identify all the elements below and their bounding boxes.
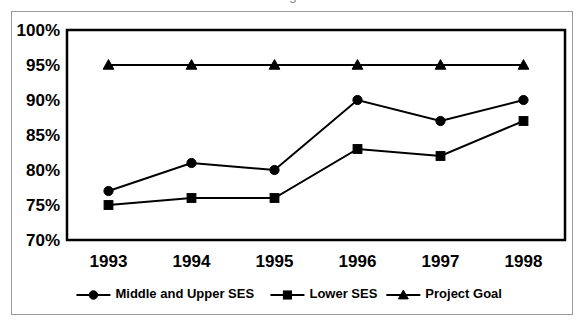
circle-marker-icon (353, 95, 362, 104)
square-marker-icon (270, 194, 279, 203)
series-line (109, 100, 524, 191)
square-marker-icon (104, 201, 113, 210)
legend-item-2[interactable]: Project Goal (386, 286, 502, 301)
x-axis-tick-labels: 199319941995199619971998 (90, 252, 543, 271)
chart-canvas: 100%95%90%85%80%75%70% 19931994199519961… (0, 0, 586, 326)
y-tick-label: 80% (26, 161, 60, 180)
circle-marker-icon (436, 116, 445, 125)
series-layer (103, 60, 529, 210)
square-marker-icon (436, 152, 445, 161)
x-tick-label: 1995 (256, 252, 294, 271)
y-tick-label: 70% (26, 231, 60, 250)
legend-item-1[interactable]: Lower SES (270, 286, 377, 301)
square-marker-icon (353, 145, 362, 154)
legend-label: Middle and Upper SES (115, 286, 254, 301)
series-2 (103, 60, 529, 70)
series-line (109, 121, 524, 205)
x-tick-label: 1994 (173, 252, 211, 271)
x-tick-label: 1993 (90, 252, 128, 271)
square-marker-icon (519, 117, 528, 126)
y-tick-label: 95% (26, 56, 60, 75)
square-marker-icon (187, 194, 196, 203)
y-tick-label: 75% (26, 196, 60, 215)
legend-label: Lower SES (309, 286, 377, 301)
legend-item-0[interactable]: Middle and Upper SES (76, 286, 254, 301)
circle-marker-icon (104, 186, 113, 195)
legend-label: Project Goal (425, 286, 502, 301)
x-tick-label: 1996 (339, 252, 377, 271)
line-chart: 100%95%90%85%80%75%70% 19931994199519961… (0, 0, 586, 326)
circle-marker-icon (270, 165, 279, 174)
chart-screenshot: g 100%95%90%85%80%75%70% 199319941995199… (0, 0, 586, 326)
y-tick-label: 100% (17, 21, 60, 40)
circle-marker-icon (187, 158, 196, 167)
series-1 (104, 117, 528, 210)
y-axis-tick-labels: 100%95%90%85%80%75%70% (17, 21, 60, 250)
x-tick-label: 1997 (422, 252, 460, 271)
x-tick-label: 1998 (505, 252, 543, 271)
circle-marker-icon (89, 291, 97, 299)
circle-marker-icon (519, 95, 528, 104)
y-tick-label: 85% (26, 126, 60, 145)
square-marker-icon (283, 291, 291, 299)
y-tick-label: 90% (26, 91, 60, 110)
chart-legend: Middle and Upper SESLower SESProject Goa… (76, 286, 501, 301)
